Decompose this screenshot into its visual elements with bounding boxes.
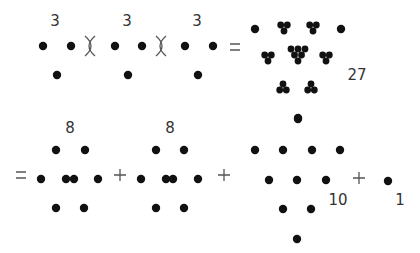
plus-icon [218, 169, 230, 181]
term-dot [279, 205, 287, 213]
term-dot [137, 175, 145, 183]
factor-dot [53, 71, 61, 79]
times-icon [85, 36, 95, 56]
result-cluster-dot [261, 52, 268, 59]
result-big-cluster-dot [288, 46, 295, 53]
plus-icon [114, 169, 126, 181]
term-dot [336, 146, 344, 154]
term-dot [52, 204, 60, 212]
term-dot [265, 176, 273, 184]
dot-diagram: 3332788101 [0, 0, 420, 253]
factor-label: 3 [122, 12, 132, 30]
term-dot [94, 175, 102, 183]
result-big-cluster-dot [298, 52, 305, 59]
term-label: 1 [395, 191, 405, 209]
result-dot [251, 25, 259, 33]
factor-label: 3 [50, 12, 60, 30]
term-dot [62, 175, 70, 183]
term-dot [293, 235, 301, 243]
factor-dot [181, 42, 189, 50]
term-dot [293, 176, 301, 184]
result-label: 27 [347, 66, 366, 84]
term-label: 8 [65, 119, 75, 137]
result-cluster-dot [313, 22, 320, 29]
term-dot [279, 146, 287, 154]
term-dot [322, 176, 330, 184]
plus-icon [353, 172, 365, 184]
factor-dot [67, 42, 75, 50]
term-dot [384, 177, 392, 185]
term-dot [81, 146, 89, 154]
factor-dot [138, 42, 146, 50]
term-dot [80, 204, 88, 212]
result-cluster-dot [265, 58, 272, 65]
term-dot [180, 146, 188, 154]
result-big-cluster-dot [302, 46, 309, 53]
result-cluster-dot [319, 52, 326, 59]
term-dot [308, 146, 316, 154]
term-dot [307, 205, 315, 213]
result-cluster-dot [284, 22, 291, 29]
result-cluster-dot [268, 52, 275, 59]
factor-dot [209, 42, 217, 50]
term-dot [152, 146, 160, 154]
term-label: 10 [328, 191, 347, 209]
result-cluster-dot [283, 87, 290, 94]
result-big-cluster-dot [295, 46, 302, 53]
result-cluster-dot [323, 58, 330, 65]
result-cluster-dot [304, 87, 311, 94]
term-dot [52, 146, 60, 154]
result-cluster-dot [276, 87, 283, 94]
result-cluster-dot [310, 28, 317, 35]
equals-icon [16, 172, 26, 178]
result-cluster-dot [326, 52, 333, 59]
factor-dot [194, 71, 202, 79]
term-label: 8 [165, 119, 175, 137]
factor-dot [111, 42, 119, 50]
result-cluster-dot [280, 81, 287, 88]
result-cluster-dot [311, 87, 318, 94]
factor-label: 3 [192, 12, 202, 30]
term-dot [169, 175, 177, 183]
equals-icon [230, 44, 240, 50]
term-dot [180, 204, 188, 212]
times-icon [156, 36, 166, 56]
diagram-canvas: 3332788101 [0, 0, 420, 253]
term-dot [37, 175, 45, 183]
result-cluster-dot [306, 22, 313, 29]
result-cluster-dot [281, 28, 288, 35]
result-cluster-dot [277, 22, 284, 29]
factor-dot [124, 71, 132, 79]
term-dot [70, 175, 78, 183]
term-dot [152, 204, 160, 212]
term-dot [194, 175, 202, 183]
result-dot [337, 25, 345, 33]
term-dot [251, 146, 259, 154]
factor-dot [39, 42, 47, 50]
result-big-cluster-dot [291, 52, 298, 59]
result-cluster-dot [308, 81, 315, 88]
result-big-cluster-dot [295, 58, 302, 65]
term-dot [294, 115, 302, 123]
